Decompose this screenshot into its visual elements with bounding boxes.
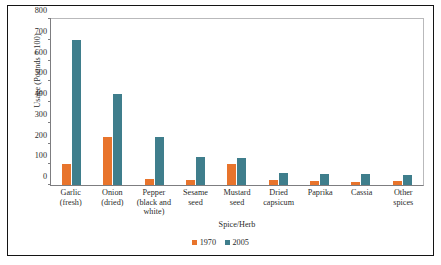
y-axis-tick-label: 700 bbox=[35, 26, 47, 35]
bar-2005 bbox=[403, 175, 412, 185]
bar-1970 bbox=[310, 181, 319, 185]
x-axis-tick-label: Cassia bbox=[341, 188, 383, 217]
x-axis-tick-label: Pepper(black andwhite) bbox=[133, 188, 175, 217]
bar-1970 bbox=[227, 164, 236, 185]
bar-group bbox=[51, 19, 92, 185]
x-axis-title: Spice/Herb bbox=[50, 220, 424, 229]
x-axis-tick-label: Other spices bbox=[383, 188, 425, 217]
bar-1970 bbox=[103, 137, 112, 185]
bar-group bbox=[175, 19, 216, 185]
x-axis-tick-label-line: Garlic bbox=[51, 188, 91, 198]
x-axis-tick-label-line: (black and bbox=[134, 198, 174, 208]
x-axis-tick-label-line: Mustard bbox=[217, 188, 257, 198]
bar-2005 bbox=[320, 174, 329, 185]
bar-group bbox=[382, 19, 423, 185]
y-axis-tick-label: 500 bbox=[35, 68, 47, 77]
bar-2005 bbox=[196, 157, 205, 185]
x-axis-tick-labels: Garlic(fresh)Onion(dried)Pepper(black an… bbox=[50, 188, 424, 217]
x-axis-tick-label: Paprika bbox=[299, 188, 341, 217]
y-axis-tick-label: 100 bbox=[35, 151, 47, 160]
bar-2005 bbox=[361, 174, 370, 185]
bar-group bbox=[92, 19, 133, 185]
y-axis-tick-label: 0 bbox=[43, 172, 47, 181]
y-axis-tick-label: 300 bbox=[35, 109, 47, 118]
legend-entry-1970: 1970 bbox=[192, 238, 216, 247]
bar-group bbox=[258, 19, 299, 185]
bar-group bbox=[299, 19, 340, 185]
chart-figure: Usage (Pounds * 100) 8007006005004003002… bbox=[7, 5, 434, 256]
bar-2005 bbox=[237, 158, 246, 185]
x-axis-tick-label-line: Sesame seed bbox=[176, 188, 216, 207]
x-axis-tick-label-line: Other spices bbox=[384, 188, 424, 207]
bar-group bbox=[216, 19, 257, 185]
x-axis-tick-label-line: (fresh) bbox=[51, 198, 91, 208]
x-axis-tick-label-line: white) bbox=[134, 207, 174, 217]
bar-2005 bbox=[155, 137, 164, 185]
y-axis-tick-label: 800 bbox=[35, 6, 47, 15]
plot-area: 8007006005004003002001000 bbox=[50, 18, 424, 186]
bar-group bbox=[134, 19, 175, 185]
legend-label: 2005 bbox=[233, 238, 249, 247]
y-axis-tick-label: 400 bbox=[35, 89, 47, 98]
legend-entry-2005: 2005 bbox=[225, 238, 249, 247]
x-axis-tick-label-line: Paprika bbox=[300, 188, 340, 198]
bar-1970 bbox=[186, 180, 195, 185]
x-axis-tick-label: Onion(dried) bbox=[92, 188, 134, 217]
legend-label: 1970 bbox=[200, 238, 216, 247]
bar-1970 bbox=[393, 181, 402, 185]
x-axis-tick-label-line: (dried) bbox=[93, 198, 133, 208]
x-axis-tick-label: Mustardseed bbox=[216, 188, 258, 217]
bar-2005 bbox=[113, 94, 122, 185]
y-axis-tick-label: 600 bbox=[35, 47, 47, 56]
x-axis-tick-label-line: Cassia bbox=[342, 188, 382, 198]
x-axis-tick-label-line: Onion bbox=[93, 188, 133, 198]
chart-legend: 19702005 bbox=[8, 238, 433, 247]
legend-swatch-icon bbox=[192, 240, 197, 245]
bar-1970 bbox=[269, 180, 278, 185]
x-axis-tick-label: Garlic(fresh) bbox=[50, 188, 92, 217]
y-axis-tick-label: 200 bbox=[35, 130, 47, 139]
x-axis-tick-label-line: capsicum bbox=[259, 198, 299, 208]
legend-swatch-icon bbox=[225, 240, 230, 245]
x-axis-tick-label-line: seed bbox=[217, 198, 257, 208]
x-axis-tick-label-line: Dried bbox=[259, 188, 299, 198]
x-axis-tick-label: Driedcapsicum bbox=[258, 188, 300, 217]
x-axis-tick-label-line: Pepper bbox=[134, 188, 174, 198]
x-axis-tick-label: Sesame seed bbox=[175, 188, 217, 217]
bar-1970 bbox=[351, 182, 360, 185]
bar-1970 bbox=[62, 164, 71, 185]
bar-groups bbox=[51, 19, 423, 185]
bar-2005 bbox=[279, 173, 288, 185]
bar-group bbox=[340, 19, 381, 185]
bar-2005 bbox=[72, 40, 81, 185]
bar-1970 bbox=[145, 179, 154, 185]
